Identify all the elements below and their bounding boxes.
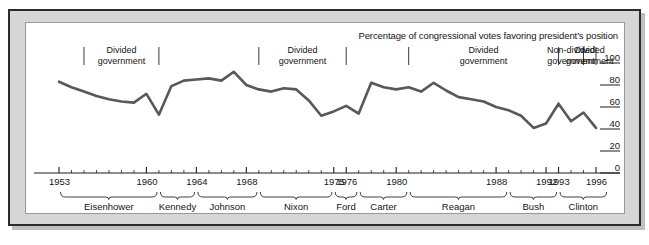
chart-plot-card: Percentage of congressional votes favori… xyxy=(25,22,625,214)
y-axis-tick-label: 40 xyxy=(598,118,620,129)
region-annotation-divided-1: Dividedgovernment xyxy=(81,45,161,66)
x-axis-year-label: 1968 xyxy=(236,176,257,187)
x-axis-year-label: 1993 xyxy=(549,176,570,187)
region-annotation-divided-3: Dividedgovernment xyxy=(444,45,524,66)
x-axis-year-label: 1996 xyxy=(586,176,607,187)
x-axis-year-label: 1960 xyxy=(136,176,157,187)
president-label: Clinton xyxy=(538,201,625,212)
y-axis-tick-label: 60 xyxy=(598,96,620,107)
region-annotation-line2: government xyxy=(263,56,343,67)
region-annotation-divided-2: Dividedgovernment xyxy=(263,45,343,66)
president-braces xyxy=(61,192,607,200)
data-line-series xyxy=(59,72,596,128)
y-axis-tick-label: 20 xyxy=(598,140,620,151)
x-axis-year-label: 1980 xyxy=(386,176,407,187)
x-axis-year-label: 1976 xyxy=(336,176,357,187)
x-axis-year-label: 1964 xyxy=(186,176,207,187)
y-axis-tick-label: 80 xyxy=(598,74,620,85)
x-axis-year-label: 1953 xyxy=(49,176,70,187)
y-axis-tick-label: 100 xyxy=(598,52,620,63)
region-annotation-line1: Divided xyxy=(81,45,161,56)
y-axis-tick-label: 0 xyxy=(598,162,620,173)
region-annotation-line2: government xyxy=(444,56,524,67)
chart-figure: Percentage of congressional votes favori… xyxy=(0,0,649,245)
region-annotation-line2: government xyxy=(81,56,161,67)
region-annotation-line1: Divided xyxy=(444,45,524,56)
x-axis-ticks xyxy=(59,167,596,173)
region-annotation-line1: Divided xyxy=(263,45,343,56)
x-axis-year-label: 1988 xyxy=(486,176,507,187)
